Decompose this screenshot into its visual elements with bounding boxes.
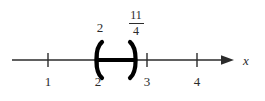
axis-label-x: x [243, 53, 249, 69]
fraction-denominator: 4 [122, 25, 150, 38]
axis-arrowhead [221, 55, 234, 65]
number-line-figure: x 1 2 3 4 2 11 4 [0, 0, 265, 101]
tick-label-4: 4 [185, 75, 209, 88]
interval-right-endpoint-fraction: 11 4 [122, 9, 150, 37]
tick-label-2: 2 [86, 75, 110, 88]
tick-label-3: 3 [135, 75, 159, 88]
interval-left-endpoint-label: 2 [87, 21, 113, 34]
fraction-numerator: 11 [122, 9, 150, 22]
tick-label-1: 1 [36, 75, 60, 88]
